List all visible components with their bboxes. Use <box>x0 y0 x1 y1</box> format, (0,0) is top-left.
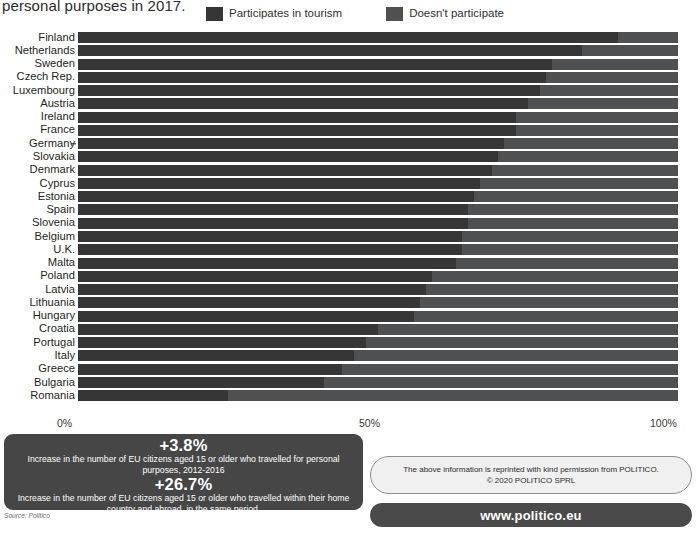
bar-participates <box>78 98 528 109</box>
chart-row: Bulgaria <box>0 376 697 389</box>
country-label: Cyprus <box>40 178 75 189</box>
country-label: Luxembourg <box>13 85 75 96</box>
bar-participates <box>78 218 468 229</box>
chart-row: Hungary <box>0 310 697 323</box>
chart-row: Luxembourg <box>0 84 697 97</box>
legend-label-doesnt-participate: Doesn't participate <box>409 8 504 20</box>
statistics-callout-box: +3.8% Increase in the number of EU citiz… <box>4 434 363 510</box>
permission-line-2: © 2020 POLITICO SPRL <box>487 475 576 486</box>
country-label: Romania <box>30 390 75 401</box>
bar-participates <box>78 258 456 269</box>
bar-doesnt-participate <box>78 165 678 176</box>
politico-url-button[interactable]: www.politico.eu <box>370 503 692 527</box>
country-label: Denmark <box>30 165 75 176</box>
bar-doesnt-participate <box>78 364 678 375</box>
country-label: U.K. <box>53 244 75 255</box>
bar-participates <box>78 165 492 176</box>
bar-participates <box>78 59 552 70</box>
bar-participates <box>78 178 480 189</box>
bar-participates <box>78 311 414 322</box>
bar-participates <box>78 125 516 136</box>
bar-doesnt-participate <box>78 271 678 282</box>
chart-row: Slovenia <box>0 217 697 230</box>
stat-value-1: +3.8% <box>4 437 363 454</box>
country-label: Slovenia <box>32 218 75 229</box>
bar-doesnt-participate <box>78 45 678 56</box>
bar-doesnt-participate <box>78 297 678 308</box>
bar-doesnt-participate <box>78 178 678 189</box>
bar-doesnt-participate <box>78 98 678 109</box>
axis-tick-100: 100% <box>650 417 677 429</box>
axis-tick-50: 50% <box>359 417 380 429</box>
bar-participates <box>78 364 342 375</box>
chart-row: Latvia <box>0 283 697 296</box>
country-label: Portugal <box>33 337 75 348</box>
bar-participates <box>78 284 426 295</box>
chart-row: Spain <box>0 203 697 216</box>
bar-participates <box>78 191 474 202</box>
bar-doesnt-participate <box>78 311 678 322</box>
bar-doesnt-participate <box>78 204 678 215</box>
country-label: Belgium <box>35 231 75 242</box>
page-title: personal purposes in 2017. <box>2 0 186 14</box>
stat-description-2: Increase in the number of EU citizens ag… <box>4 493 363 515</box>
bar-participates <box>78 244 462 255</box>
legend-item-participates: Participates in tourism <box>206 7 342 21</box>
row-leader-dash-icon <box>71 143 76 144</box>
bar-doesnt-participate <box>78 244 678 255</box>
legend-label-participates: Participates in tourism <box>229 8 342 20</box>
bar-doesnt-participate <box>78 231 678 242</box>
chart-row: Croatia <box>0 323 697 336</box>
bar-participates <box>78 85 540 96</box>
country-label: Latvia <box>45 284 75 295</box>
permission-line-1: The above information is reprinted with … <box>403 464 659 475</box>
bar-doesnt-participate <box>78 85 678 96</box>
chart-row: U.K. <box>0 243 697 256</box>
chart-legend: Participates in tourism Doesn't particip… <box>206 7 504 21</box>
bar-participates <box>78 112 516 123</box>
x-axis: 0% 50% 100% <box>0 417 697 433</box>
chart-row: Finland <box>0 31 697 44</box>
country-label: Finland <box>38 32 75 43</box>
bar-participates <box>78 72 546 83</box>
bar-doesnt-participate <box>78 112 678 123</box>
legend-item-doesnt-participate: Doesn't participate <box>386 7 504 21</box>
chart-row: Austria <box>0 97 697 110</box>
bar-participates <box>78 377 324 388</box>
bar-doesnt-participate <box>78 377 678 388</box>
bar-participates <box>78 271 432 282</box>
stat-description-1: Increase in the number of EU citizens ag… <box>4 454 363 476</box>
chart-row: Czech Rep. <box>0 71 697 84</box>
bar-doesnt-participate <box>78 324 678 335</box>
country-label: Czech Rep. <box>17 72 75 83</box>
bar-participates <box>78 45 582 56</box>
permission-notice-box: The above information is reprinted with … <box>370 456 692 494</box>
chart-row: Ireland <box>0 111 697 124</box>
country-label: Germany <box>29 138 75 149</box>
country-label: Greece <box>38 364 75 375</box>
bar-participates <box>78 231 462 242</box>
country-label: Ireland <box>41 112 75 123</box>
chart-row: Estonia <box>0 190 697 203</box>
chart-row: Portugal <box>0 336 697 349</box>
chart-row: Greece <box>0 363 697 376</box>
bar-doesnt-participate <box>78 390 678 401</box>
country-label: Italy <box>54 350 75 361</box>
chart-row: Slovakia <box>0 150 697 163</box>
tourism-participation-bar-chart: FinlandNetherlandsSwedenCzech Rep.Luxemb… <box>0 31 697 416</box>
bar-doesnt-participate <box>78 218 678 229</box>
bar-doesnt-participate <box>78 337 678 348</box>
bar-participates <box>78 151 498 162</box>
country-label: Bulgaria <box>34 377 75 388</box>
axis-tick-0: 0% <box>57 417 72 429</box>
stat-value-2: +26.7% <box>4 476 363 493</box>
country-label: Slovakia <box>33 151 75 162</box>
bar-participates <box>78 337 366 348</box>
country-label: Spain <box>46 204 75 215</box>
country-label: Estonia <box>38 191 75 202</box>
bar-participates <box>78 324 378 335</box>
bar-participates <box>78 204 468 215</box>
bar-doesnt-participate <box>78 151 678 162</box>
country-label: Poland <box>40 271 75 282</box>
bar-doesnt-participate <box>78 32 678 43</box>
